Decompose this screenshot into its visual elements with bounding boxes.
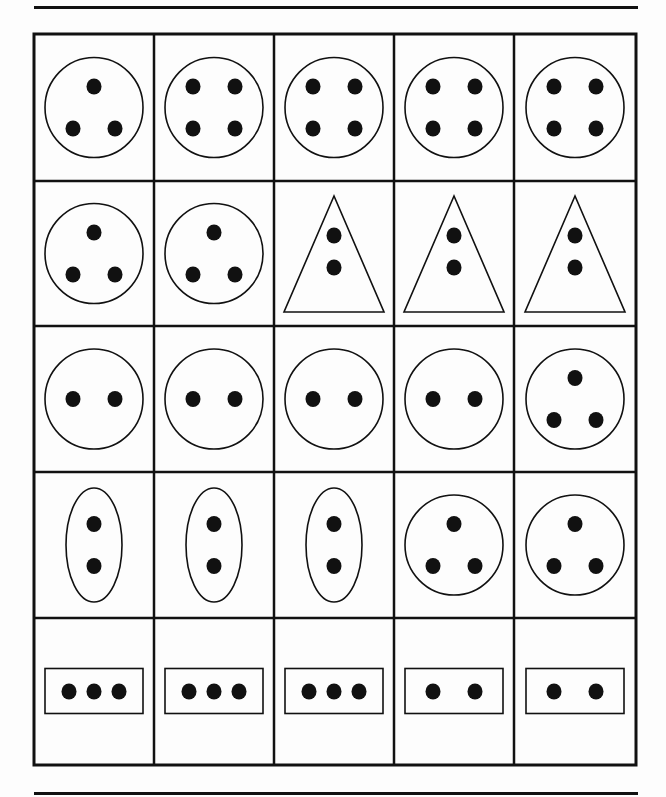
grid-cell <box>45 204 143 304</box>
dot-icon <box>547 412 562 428</box>
dot-icon <box>447 516 462 532</box>
dot-icon <box>568 260 583 276</box>
dot-icon <box>66 391 81 407</box>
dot-icon <box>447 260 462 276</box>
dot-icon <box>87 684 102 700</box>
dot-icon <box>62 684 77 700</box>
grid-cell <box>405 349 503 449</box>
grid-cell <box>526 669 624 714</box>
dot-icon <box>108 267 123 283</box>
dot-icon <box>327 516 342 532</box>
circle-outline-icon <box>405 58 503 158</box>
dot-icon <box>327 260 342 276</box>
grid-cell <box>186 488 242 602</box>
dot-icon <box>568 370 583 386</box>
dot-icon <box>327 558 342 574</box>
triangle-outline-icon <box>284 196 384 312</box>
dot-icon <box>468 391 483 407</box>
grid-cell <box>404 196 504 312</box>
grid-cell <box>526 495 624 595</box>
dot-icon <box>547 558 562 574</box>
grid-cell <box>405 669 503 714</box>
rectangle-outline-icon <box>405 669 503 714</box>
dot-icon <box>426 79 441 95</box>
circle-outline-icon <box>45 349 143 449</box>
dot-icon <box>207 225 222 241</box>
grid-cell <box>405 495 503 595</box>
grid-cell <box>165 349 263 449</box>
dot-icon <box>547 684 562 700</box>
dot-icon <box>426 558 441 574</box>
dot-icon <box>306 391 321 407</box>
oval-outline-icon <box>186 488 242 602</box>
circle-outline-icon <box>526 495 624 595</box>
dot-icon <box>87 558 102 574</box>
dot-icon <box>306 79 321 95</box>
dot-icon <box>232 684 247 700</box>
dot-icon <box>468 684 483 700</box>
grid-cell <box>165 669 263 714</box>
circle-outline-icon <box>405 349 503 449</box>
dot-icon <box>447 228 462 244</box>
dot-icon <box>182 684 197 700</box>
circle-outline-icon <box>526 58 624 158</box>
grid-cell <box>165 204 263 304</box>
dot-icon <box>186 391 201 407</box>
circle-outline-icon <box>405 495 503 595</box>
dot-icon <box>302 684 317 700</box>
grid-cell <box>45 669 143 714</box>
grid-cell <box>165 58 263 158</box>
dot-icon <box>87 79 102 95</box>
oval-outline-icon <box>306 488 362 602</box>
dot-icon <box>66 121 81 137</box>
dot-icon <box>547 79 562 95</box>
dot-icon <box>468 121 483 137</box>
circle-outline-icon <box>526 349 624 449</box>
dot-icon <box>589 121 604 137</box>
dot-icon <box>589 684 604 700</box>
dot-icon <box>108 121 123 137</box>
dot-icon <box>207 684 222 700</box>
dot-icon <box>327 684 342 700</box>
dot-icon <box>186 121 201 137</box>
dot-icon <box>589 79 604 95</box>
dot-icon <box>348 79 363 95</box>
dot-icon <box>426 391 441 407</box>
dot-icon <box>207 558 222 574</box>
grid-cell <box>526 349 624 449</box>
dot-icon <box>426 121 441 137</box>
dot-icon <box>568 228 583 244</box>
dot-icon <box>589 412 604 428</box>
grid-cell <box>525 196 625 312</box>
dot-icon <box>207 516 222 532</box>
dot-icon <box>568 516 583 532</box>
circle-outline-icon <box>45 58 143 158</box>
dot-icon <box>228 391 243 407</box>
dot-icon <box>87 225 102 241</box>
grid-cell <box>285 58 383 158</box>
dot-icon <box>327 228 342 244</box>
oval-outline-icon <box>66 488 122 602</box>
triangle-outline-icon <box>525 196 625 312</box>
dot-icon <box>112 684 127 700</box>
dot-icon <box>468 558 483 574</box>
triangle-outline-icon <box>404 196 504 312</box>
dot-icon <box>186 79 201 95</box>
circle-outline-icon <box>45 204 143 304</box>
grid-cell <box>526 58 624 158</box>
dot-icon <box>66 267 81 283</box>
rectangle-outline-icon <box>526 669 624 714</box>
circle-outline-icon <box>165 58 263 158</box>
grid-cell <box>405 58 503 158</box>
grid-cell <box>285 669 383 714</box>
dot-icon <box>589 558 604 574</box>
dot-icon <box>186 267 201 283</box>
grid-cell <box>285 349 383 449</box>
dot-icon <box>348 121 363 137</box>
grid-cell <box>45 349 143 449</box>
dot-icon <box>228 79 243 95</box>
dot-icon <box>426 684 441 700</box>
dot-icon <box>87 516 102 532</box>
circle-outline-icon <box>285 58 383 158</box>
dot-icon <box>108 391 123 407</box>
